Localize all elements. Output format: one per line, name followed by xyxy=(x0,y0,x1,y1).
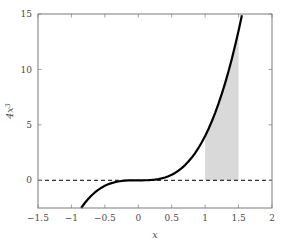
y-axis-tick-labels: 051015 xyxy=(21,9,33,185)
chart-canvas: −1.5−1−0.500.511.52 051015 x 4x3 xyxy=(0,0,288,248)
x-tick-label: 0.5 xyxy=(165,213,180,223)
x-tick-label: 1.5 xyxy=(231,213,246,223)
x-tick-label: −1.5 xyxy=(27,213,49,223)
x-tick-label: −1 xyxy=(65,213,78,223)
y-tick-label: 15 xyxy=(21,9,33,19)
x-tick-label: 1 xyxy=(202,213,208,223)
y-tick-label: 5 xyxy=(26,120,32,130)
y-axis-title: 4x3 xyxy=(4,103,15,120)
chart-figure: −1.5−1−0.500.511.52 051015 x 4x3 xyxy=(0,0,288,248)
x-axis-title: x xyxy=(152,229,158,240)
svg-text:4x3: 4x3 xyxy=(4,103,15,120)
x-tick-label: −0.5 xyxy=(94,213,116,223)
x-tick-label: 2 xyxy=(269,213,275,223)
x-tick-label: 0 xyxy=(135,213,141,223)
x-axis-tick-labels: −1.5−1−0.500.511.52 xyxy=(27,213,275,223)
y-tick-label: 10 xyxy=(21,65,33,75)
y-tick-label: 0 xyxy=(26,175,32,185)
